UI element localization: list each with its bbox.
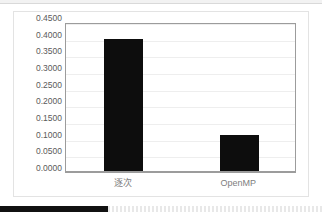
- x-axis-category-labels: 逐次OpenMP: [65, 178, 296, 194]
- y-axis-tick-label: 0.2500: [16, 81, 62, 90]
- bar: [104, 39, 143, 172]
- x-axis-category-label: OpenMP: [181, 178, 297, 189]
- bar: [220, 135, 259, 172]
- x-axis-line: [66, 171, 295, 173]
- chart-plot-wrapper: 0.00000.05000.10000.15000.20000.25000.30…: [14, 12, 310, 198]
- y-axis-tick-label: 0.0500: [16, 147, 62, 156]
- plot-area: [65, 23, 296, 173]
- bottom-progress-bar: [0, 206, 108, 212]
- y-axis-tick-label: 0.2000: [16, 97, 62, 106]
- y-axis-tick-label: 0.4000: [16, 31, 62, 40]
- y-axis-tick-labels: 0.00000.05000.10000.15000.20000.25000.30…: [16, 18, 62, 174]
- x-axis-category-label: 逐次: [65, 178, 181, 189]
- bottom-progress-track: [108, 206, 322, 212]
- bar-series: [66, 24, 295, 172]
- top-divider-rule: [0, 3, 322, 4]
- y-axis-tick-label: 0.4500: [16, 14, 62, 23]
- y-axis-tick-label: 0.3000: [16, 64, 62, 73]
- y-axis-tick-label: 0.1500: [16, 114, 62, 123]
- chart-frame: 0.00000.05000.10000.15000.20000.25000.30…: [13, 11, 309, 197]
- y-axis-tick-label: 0.1000: [16, 131, 62, 140]
- y-axis-tick-label: 0.3500: [16, 47, 62, 56]
- y-axis-tick-label: 0.0000: [16, 164, 62, 173]
